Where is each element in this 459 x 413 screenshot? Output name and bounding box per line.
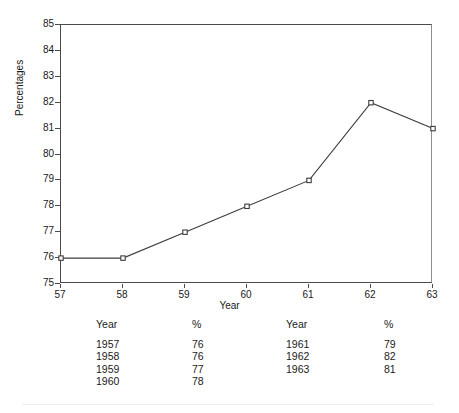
y-tick-label: 79 bbox=[0, 173, 60, 185]
cell-year-b: 1961 bbox=[286, 338, 384, 351]
x-tick-mark bbox=[60, 284, 61, 288]
cell-year-b bbox=[286, 375, 384, 388]
x-axis-title: Year bbox=[0, 300, 459, 312]
cell-pct-a: 76 bbox=[192, 338, 286, 351]
y-tick-label: 85 bbox=[0, 18, 60, 30]
cell-pct-b bbox=[384, 375, 424, 388]
cell-year-a: 1957 bbox=[96, 338, 192, 351]
line-chart: Percentages 8584838281807978777675 57585… bbox=[0, 0, 459, 310]
data-point-marker bbox=[59, 256, 63, 260]
y-tick-label: 80 bbox=[0, 148, 60, 160]
figure: Percentages 8584838281807978777675 57585… bbox=[0, 0, 459, 413]
table-body: 1957761961791958761962821959771963811960… bbox=[96, 338, 424, 388]
cell-pct-a: 77 bbox=[192, 363, 286, 376]
x-tick-mark bbox=[308, 284, 309, 288]
plot-svg bbox=[61, 25, 433, 284]
x-tick-mark bbox=[184, 284, 185, 288]
y-tick-label: 82 bbox=[0, 96, 60, 108]
x-tick-mark bbox=[432, 284, 433, 288]
y-tick-label: 84 bbox=[0, 44, 60, 56]
x-tick-mark bbox=[370, 284, 371, 288]
data-table: Year % Year % 19577619617919587619628219… bbox=[0, 318, 459, 388]
cell-pct-b: 82 bbox=[384, 350, 424, 363]
header-year-b: Year bbox=[286, 318, 384, 338]
cell-pct-a: 78 bbox=[192, 375, 286, 388]
y-tick-label: 81 bbox=[0, 122, 60, 134]
table-row: 195876196282 bbox=[96, 350, 424, 363]
header-pct-b: % bbox=[384, 318, 424, 338]
table-header-row: Year % Year % bbox=[96, 318, 424, 338]
header-pct-a: % bbox=[192, 318, 286, 338]
data-point-marker bbox=[121, 256, 125, 260]
y-tick-label: 78 bbox=[0, 199, 60, 211]
series-markers bbox=[59, 101, 435, 261]
header-year-a: Year bbox=[96, 318, 192, 338]
series-line bbox=[61, 103, 433, 258]
data-point-marker bbox=[183, 230, 187, 234]
cell-year-a: 1959 bbox=[96, 363, 192, 376]
cell-year-b: 1963 bbox=[286, 363, 384, 376]
cell-year-a: 1960 bbox=[96, 375, 192, 388]
plot-frame bbox=[60, 24, 432, 283]
cell-year-b: 1962 bbox=[286, 350, 384, 363]
cell-year-a: 1958 bbox=[96, 350, 192, 363]
cell-pct-b: 81 bbox=[384, 363, 424, 376]
scan-artifact bbox=[22, 404, 434, 405]
x-tick-mark bbox=[246, 284, 247, 288]
data-point-marker bbox=[369, 101, 373, 105]
table-row: 195776196179 bbox=[96, 338, 424, 351]
cell-pct-a: 76 bbox=[192, 350, 286, 363]
table-row: 195977196381 bbox=[96, 363, 424, 376]
table-header: Year % Year % bbox=[96, 318, 424, 338]
y-tick-label: 77 bbox=[0, 225, 60, 237]
data-point-marker bbox=[307, 178, 311, 182]
x-tick-mark bbox=[122, 284, 123, 288]
y-tick-label: 83 bbox=[0, 70, 60, 82]
y-tick-label: 76 bbox=[0, 251, 60, 263]
y-tick-label: 75 bbox=[0, 277, 60, 289]
data-point-marker bbox=[431, 126, 435, 130]
percentages-table: Year % Year % 19577619617919587619628219… bbox=[96, 318, 424, 388]
data-point-marker bbox=[245, 204, 249, 208]
cell-pct-b: 79 bbox=[384, 338, 424, 351]
table-row: 196078 bbox=[96, 375, 424, 388]
